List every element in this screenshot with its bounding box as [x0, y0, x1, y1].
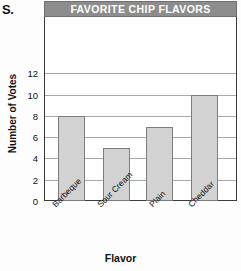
y-tick-10: 10: [27, 89, 38, 100]
y-tick-0: 0: [33, 196, 38, 207]
plot-area: [45, 17, 236, 200]
x-axis-title: Flavor: [0, 252, 241, 264]
plot-frame: [44, 17, 237, 201]
chart-figure: S. FAVORITE CHIP FLAVORS 0 2 4 6 8 10 12…: [0, 0, 241, 271]
question-marker: S.: [2, 2, 14, 17]
x-axis-tick-labels: Barbeque Sour Cream Plain Cheddar: [44, 202, 237, 248]
y-tick-4: 4: [33, 153, 38, 164]
y-tick-8: 8: [33, 110, 38, 121]
chart-title: FAVORITE CHIP FLAVORS: [70, 3, 210, 15]
y-axis-title: Number of Votes: [7, 59, 18, 169]
y-tick-2: 2: [33, 174, 38, 185]
gridline-12: [45, 73, 236, 74]
y-tick-6: 6: [33, 132, 38, 143]
y-tick-12: 12: [27, 68, 38, 79]
chart-title-banner: FAVORITE CHIP FLAVORS: [44, 1, 237, 17]
